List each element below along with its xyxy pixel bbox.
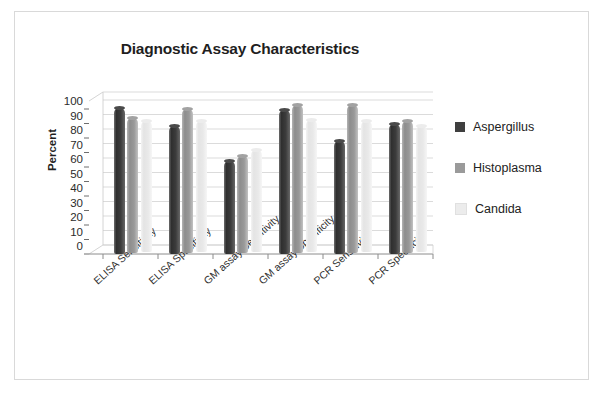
bar-candida-1 [196,121,207,252]
chart-title: Diagnostic Assay Characteristics [15,40,465,58]
bar-aspergillus-4 [334,141,345,254]
bar-cap [334,139,345,143]
bar-histoplasma-5 [402,121,413,253]
chart-legend: AspergillusHistoplasmaCandida [455,118,590,241]
legend-label: Aspergillus [473,120,534,134]
bar-cap [127,116,138,120]
y-tick-80: 80 [47,125,83,135]
bar-cap [279,108,290,112]
legend-swatch-icon [455,122,465,132]
bar-cap [237,154,248,158]
bar-cap [306,118,317,122]
legend-swatch-icon [455,163,465,173]
bar-aspergillus-2 [224,161,235,254]
bar-candida-0 [141,121,152,252]
bar-cap [416,124,427,128]
bar-aspergillus-5 [389,124,400,255]
y-tick-60: 60 [47,154,83,164]
bar-candida-5 [416,126,427,252]
bar-histoplasma-4 [347,105,358,253]
bar-aspergillus-3 [279,110,290,254]
bar-cap [361,119,372,123]
y-tick-50: 50 [47,169,83,179]
bar-cap [224,159,235,163]
legend-swatch-icon [455,203,467,215]
bar-candida-2 [251,150,262,252]
chart-frame: Diagnostic Assay Characteristics Percent… [14,11,589,380]
y-axis-tick-labels: 1009080706050403020100 [47,92,83,254]
bar-cap [347,103,358,107]
bar-histoplasma-0 [127,118,138,253]
bar-cap [114,106,125,110]
y-tick-20: 20 [47,212,83,222]
y-tick-40: 40 [47,183,83,193]
bar-aspergillus-0 [114,108,125,254]
bar-cap [389,122,400,126]
legend-item-histoplasma[interactable]: Histoplasma [455,159,590,176]
bar-histoplasma-1 [182,109,193,253]
bar-cap [292,103,303,107]
legend-item-candida[interactable]: Candida [455,200,590,217]
bar-cap [141,119,152,123]
y-tick-90: 90 [47,111,83,121]
y-tick-100: 100 [47,96,83,106]
legend-label: Candida [475,202,522,216]
bar-cap [182,107,193,111]
back-wall-left [89,92,103,254]
y-tick-30: 30 [47,198,83,208]
bar-candida-3 [306,120,317,252]
bar-cap [169,124,180,128]
bar-cap [402,119,413,123]
bar-histoplasma-2 [237,156,248,253]
legend-item-aspergillus[interactable]: Aspergillus [455,118,590,135]
y-tick-70: 70 [47,140,83,150]
bar-histoplasma-3 [292,105,303,253]
bar-candida-4 [361,121,372,252]
y-tick-0: 0 [47,241,83,251]
bar-cap [196,119,207,123]
plot-area [89,92,433,254]
y-tick-10: 10 [47,227,83,237]
bar-aspergillus-1 [169,126,180,254]
bar-cap [251,148,262,152]
legend-label: Histoplasma [473,161,542,175]
